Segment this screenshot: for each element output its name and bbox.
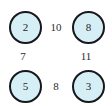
graph-node-top-right[interactable]: 8 <box>72 11 105 44</box>
graph-node-label: 8 <box>86 22 92 33</box>
weighted-graph-diagram: 2 8 5 3 10 7 11 8 <box>0 0 112 106</box>
edge-weight-left: 7 <box>13 51 33 62</box>
graph-node-bottom-left[interactable]: 5 <box>9 70 42 103</box>
edge-weight-bottom: 8 <box>46 81 66 92</box>
edge-weight-top: 10 <box>46 22 66 33</box>
graph-node-label: 3 <box>86 81 92 92</box>
graph-node-label: 2 <box>23 22 29 33</box>
graph-node-label: 5 <box>23 81 29 92</box>
edge-weight-right: 11 <box>76 51 96 62</box>
graph-node-top-left[interactable]: 2 <box>9 11 42 44</box>
graph-node-bottom-right[interactable]: 3 <box>72 70 105 103</box>
